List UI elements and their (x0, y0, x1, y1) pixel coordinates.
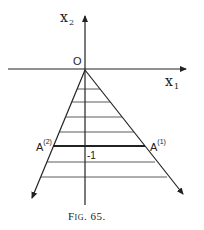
minus-one-label: -1 (87, 151, 96, 161)
diagram-canvas (0, 0, 204, 230)
hatching (41, 89, 167, 177)
x1-axis-label: x1 (165, 74, 179, 91)
A2-label: A(2) (36, 138, 52, 153)
figure-caption: Fig. 65. (68, 211, 106, 222)
x2-axis-label: x2 (60, 10, 74, 27)
origin-label: O (73, 56, 82, 67)
figure-65: x2 x1 O A(2) A(1) -1 Fig. 65. (0, 0, 204, 230)
A1-label: A(1) (150, 138, 166, 153)
